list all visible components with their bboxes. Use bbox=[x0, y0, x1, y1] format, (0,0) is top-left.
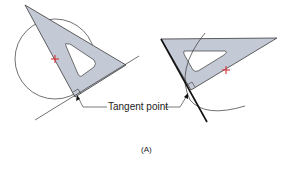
left-leader-line bbox=[78, 97, 107, 107]
right-panel bbox=[161, 33, 277, 122]
right-leader-line bbox=[165, 97, 186, 107]
tangent-point-label: Tangent point bbox=[108, 101, 168, 112]
right-triangle bbox=[161, 38, 277, 90]
figure-caption: (A) bbox=[141, 145, 152, 154]
right-arrowhead-icon bbox=[184, 93, 188, 99]
tangent-construction-figure: Tangent point (A) bbox=[0, 0, 296, 171]
